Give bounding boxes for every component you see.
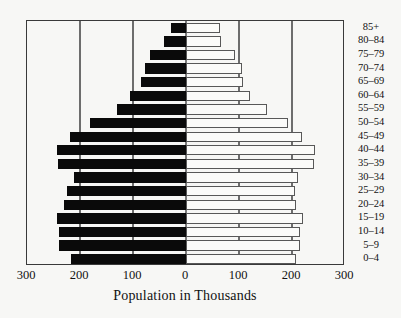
bar-male <box>130 91 186 101</box>
bar-row <box>27 240 343 250</box>
bar-row <box>27 254 343 264</box>
bar-male <box>71 254 186 264</box>
bars-layer <box>27 21 343 264</box>
bar-row <box>27 132 343 142</box>
bar-female <box>186 118 288 128</box>
bar-row <box>27 159 343 169</box>
bar-male <box>59 240 186 250</box>
bar-male <box>59 227 186 237</box>
bar-row <box>27 91 343 101</box>
bar-male <box>70 132 186 142</box>
bar-male <box>164 36 186 46</box>
x-tick-label: 300 <box>6 268 46 283</box>
bar-row <box>27 172 343 182</box>
bar-female <box>186 186 295 196</box>
category-label: 10–14 <box>348 225 394 236</box>
bar-female <box>186 50 235 60</box>
bar-row <box>27 77 343 87</box>
category-label: 20–24 <box>348 198 394 209</box>
x-tick-label: 200 <box>59 268 99 283</box>
bar-male <box>64 200 186 210</box>
bar-row <box>27 213 343 223</box>
bar-male <box>171 23 186 33</box>
bar-row <box>27 104 343 114</box>
bar-row <box>27 63 343 73</box>
bar-female <box>186 240 300 250</box>
bar-row <box>27 145 343 155</box>
category-label: 5–9 <box>348 239 394 250</box>
bar-row <box>27 118 343 128</box>
bar-female <box>186 91 250 101</box>
x-axis-title: Population in Thousands <box>26 288 344 304</box>
bar-male <box>67 186 186 196</box>
category-label: 25–29 <box>348 184 394 195</box>
bar-male <box>90 118 186 128</box>
category-label: 0–4 <box>348 252 394 263</box>
x-tick-label: 200 <box>271 268 311 283</box>
category-label: 35–39 <box>348 157 394 168</box>
category-label: 70–74 <box>348 62 394 73</box>
bar-female <box>186 104 267 114</box>
category-label: 15–19 <box>348 211 394 222</box>
bar-female <box>186 159 314 169</box>
category-label: 80–84 <box>348 34 394 45</box>
bar-male <box>145 63 186 73</box>
bar-male <box>74 172 186 182</box>
bar-row <box>27 186 343 196</box>
bar-row <box>27 36 343 46</box>
category-label: 75–79 <box>348 48 394 59</box>
bar-female <box>186 227 300 237</box>
bar-female <box>186 172 298 182</box>
bar-female <box>186 254 296 264</box>
plot-area <box>26 20 344 265</box>
x-tick-label: 100 <box>218 268 258 283</box>
category-label: 50–54 <box>348 116 394 127</box>
bar-female <box>186 77 243 87</box>
bar-male <box>117 104 186 114</box>
population-pyramid-chart: 85+80–8475–7970–7465–6960–6455–5950–5445… <box>0 0 401 318</box>
category-label: 40–44 <box>348 143 394 154</box>
bar-male <box>57 213 186 223</box>
category-label: 60–64 <box>348 89 394 100</box>
bar-row <box>27 23 343 33</box>
bar-row <box>27 227 343 237</box>
x-tick-label: 100 <box>112 268 152 283</box>
bar-male <box>150 50 186 60</box>
bar-male <box>57 145 186 155</box>
bar-male <box>58 159 186 169</box>
bar-row <box>27 200 343 210</box>
x-tick-label: 300 <box>324 268 364 283</box>
category-label: 85+ <box>348 21 394 32</box>
bar-row <box>27 50 343 60</box>
bar-female <box>186 200 296 210</box>
category-label: 45–49 <box>348 130 394 141</box>
category-label: 30–34 <box>348 171 394 182</box>
bar-female <box>186 36 221 46</box>
category-label: 55–59 <box>348 102 394 113</box>
bar-male <box>141 77 186 87</box>
bar-female <box>186 145 315 155</box>
bar-female <box>186 23 220 33</box>
category-label: 65–69 <box>348 75 394 86</box>
x-tick-label: 0 <box>165 268 205 283</box>
bar-female <box>186 213 303 223</box>
category-axis-labels: 85+80–8475–7970–7465–6960–6455–5950–5445… <box>348 20 400 265</box>
bar-female <box>186 132 302 142</box>
bar-female <box>186 63 242 73</box>
value-axis-tick-labels: 3002001000100200300 <box>0 268 401 284</box>
